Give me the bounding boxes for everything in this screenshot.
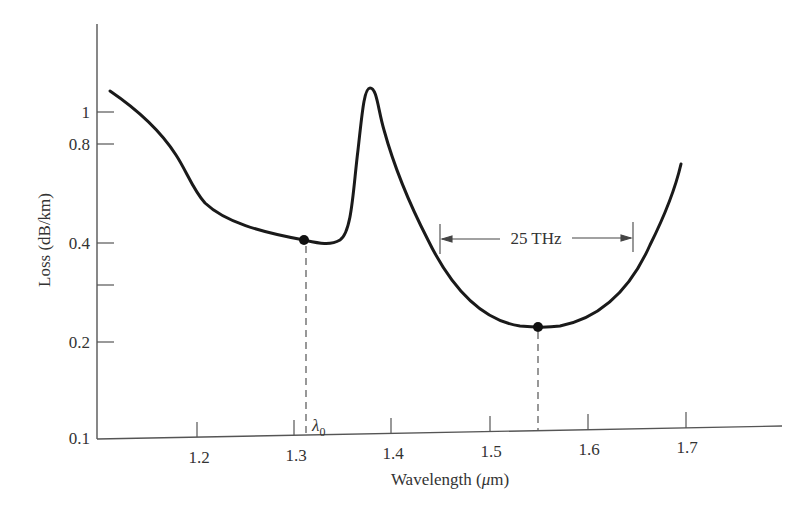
lambda0-marker — [299, 235, 309, 245]
y-tick-labels: 1 0.8 0.4 0.2 0.1 — [69, 103, 91, 448]
x-axis-title: Wavelength (μm) — [391, 470, 509, 489]
x-ticks — [197, 412, 686, 437]
x-tick-label: 1.5 — [480, 442, 501, 461]
x-tick-label: 1.2 — [188, 448, 209, 467]
x-tick-label: 1.6 — [578, 440, 599, 459]
x-tick-label: 1.4 — [382, 444, 404, 463]
y-tick-label: 0.1 — [69, 429, 90, 448]
loss-curve — [110, 88, 681, 327]
lambda-subscript: 0 — [319, 425, 325, 439]
y-tick-label: 1 — [82, 103, 91, 122]
y-axis-title: Loss (dB/km) — [35, 193, 54, 287]
bandwidth-label: 25 THz — [510, 229, 562, 248]
x-tick-label: 1.3 — [285, 446, 306, 465]
min-loss-marker — [533, 322, 543, 332]
y-tick-label: 0.2 — [69, 333, 90, 352]
y-ticks — [97, 112, 114, 342]
x-axis-title-suffix: m) — [490, 470, 509, 489]
drop-lines — [306, 246, 538, 434]
x-axis-title-prefix: Wavelength ( — [391, 470, 482, 489]
x-tick-labels: 1.2 1.3 1.4 1.5 1.6 1.7 — [188, 438, 698, 467]
y-tick-label: 0.4 — [69, 234, 91, 253]
arrow-left-icon — [442, 236, 452, 242]
lambda-symbol: λ — [311, 416, 319, 435]
arrow-right-icon — [621, 235, 631, 241]
x-tick-label: 1.7 — [676, 438, 698, 457]
mu-symbol: μ — [481, 470, 491, 489]
loss-vs-wavelength-chart: 1 0.8 0.4 0.2 0.1 Loss (dB/km) 1.2 1.3 1… — [0, 0, 807, 514]
y-tick-label: 0.8 — [69, 135, 90, 154]
